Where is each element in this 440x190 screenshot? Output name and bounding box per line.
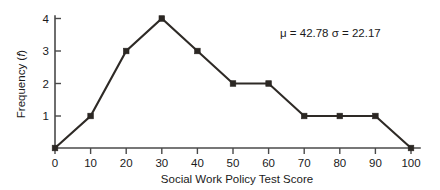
x-tick-label-30: 30 xyxy=(155,157,168,169)
data-point-60 xyxy=(266,81,272,87)
y-tick-label-1: 1 xyxy=(43,110,49,122)
data-point-20 xyxy=(123,48,129,54)
y-axis-title: Frequency (f) xyxy=(15,50,27,119)
x-axis-title: Social Work Policy Test Score xyxy=(161,173,313,185)
data-point-90 xyxy=(373,113,379,119)
y-axis-title-text: Frequency xyxy=(15,64,27,119)
x-tick-label-60: 60 xyxy=(262,157,275,169)
y-tick-label-4: 4 xyxy=(43,13,50,25)
y-tick-label-3: 3 xyxy=(43,45,49,57)
x-tick-label-10: 10 xyxy=(84,157,97,169)
chart-canvas: 1 2 3 4 0 10 20 30 40 50 60 xyxy=(0,0,440,190)
x-tick-label-70: 70 xyxy=(298,157,311,169)
data-point-40 xyxy=(195,48,201,54)
x-tick-label-90: 90 xyxy=(369,157,382,169)
x-tick-label-20: 20 xyxy=(120,157,133,169)
frequency-polygon-chart: 1 2 3 4 0 10 20 30 40 50 60 xyxy=(0,0,440,190)
y-axis-title-paren-close: ) xyxy=(15,50,27,54)
x-tick-label-0: 0 xyxy=(52,157,58,169)
mean-sd-annotation: μ = 42.78 σ = 22.17 xyxy=(280,27,381,39)
data-point-50 xyxy=(230,81,236,87)
data-point-10 xyxy=(88,113,94,119)
data-point-80 xyxy=(337,113,343,119)
data-point-70 xyxy=(301,113,307,119)
x-tick-label-40: 40 xyxy=(191,157,204,169)
y-tick-label-2: 2 xyxy=(43,78,49,90)
data-point-0 xyxy=(52,145,58,151)
data-point-30 xyxy=(159,16,165,22)
x-tick-label-50: 50 xyxy=(227,157,240,169)
x-tick-label-100: 100 xyxy=(401,157,420,169)
data-point-100 xyxy=(408,145,414,151)
x-tick-label-80: 80 xyxy=(333,157,346,169)
